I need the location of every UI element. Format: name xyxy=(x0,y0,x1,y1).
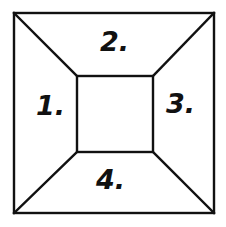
region-label-top: 2. xyxy=(100,26,129,57)
region-label-bottom: 4. xyxy=(95,164,125,195)
inner-square xyxy=(77,76,153,152)
diagonal-bottom-right xyxy=(153,152,214,213)
diagonal-bottom-left xyxy=(14,152,77,213)
diagonal-top-right xyxy=(153,13,214,76)
region-label-right: 3. xyxy=(166,88,195,119)
square-partition-diagram: 1. 2. 3. 4. xyxy=(0,0,226,227)
diagonal-top-left xyxy=(14,13,77,76)
region-label-left: 1. xyxy=(36,90,65,121)
